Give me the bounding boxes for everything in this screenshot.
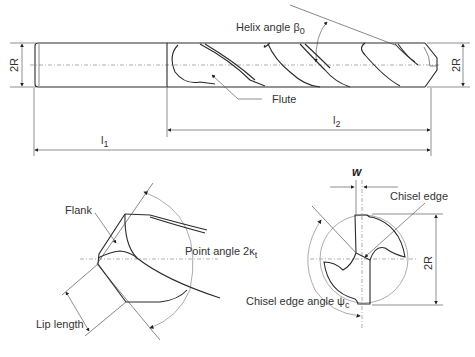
flute-length-label: l2 [333,114,340,129]
drill-side-view: Helix angle β0 Flute 2R 2R l2 l1 [8,5,470,156]
chisel-edge-label: Chisel edge [390,190,448,202]
flute-label: Flute [272,93,296,105]
shank-diameter-label: 2R [8,58,20,72]
helix-reference-line [290,5,395,45]
end-diameter-label: 2R [422,256,434,270]
flank-leader [95,213,116,243]
flank-label: Flank [65,204,92,216]
helix-angle-label: Helix angle β0 [236,21,305,36]
overall-length-label: l1 [101,134,108,149]
point-angle-arc [144,192,193,328]
web-thickness-label: w [352,165,362,179]
drill-point-view: Flank Point angle 2κt Lip length [36,183,258,340]
point-angle-label: Point angle 2κt [185,245,258,260]
chisel-reference-line [312,206,357,254]
chisel-angle-label: Chisel edge angle ψc [246,295,350,310]
tip-diameter-label: 2R [450,58,462,72]
chisel-edge-leader [365,203,425,257]
drill-end-view: w Chisel edge Chisel edge angle ψc 2R [246,165,448,328]
drill-geometry-diagram: Helix angle β0 Flute 2R 2R l2 l1 [0,0,475,357]
lip-length-label: Lip length [36,318,84,330]
